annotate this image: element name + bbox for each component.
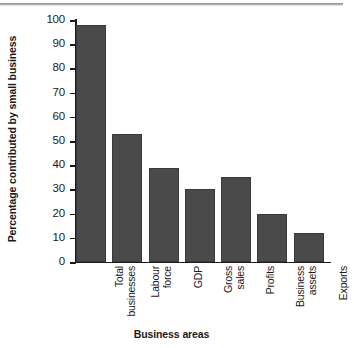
y-tick-label: 70 xyxy=(25,87,65,99)
y-tick-label: 30 xyxy=(25,183,65,195)
bar xyxy=(185,189,215,262)
x-axis-title: Business areas xyxy=(0,328,343,340)
y-tick-label: 90 xyxy=(25,38,65,50)
bar xyxy=(294,233,324,262)
y-tick-label: 20 xyxy=(25,208,65,220)
y-axis-title: Percentage contributed by small business xyxy=(4,16,20,262)
x-category-label-line: Profits xyxy=(264,266,276,294)
y-tick-label: 10 xyxy=(25,232,65,244)
x-category-label-line: businesses xyxy=(125,266,137,317)
y-tick-label: 50 xyxy=(25,135,65,147)
y-tick-label: 80 xyxy=(25,62,65,74)
bar xyxy=(221,177,251,262)
x-category-label-line: Labour xyxy=(149,266,161,298)
x-category-label-line: Exports xyxy=(337,266,349,300)
x-category-label-line: sales xyxy=(234,266,246,293)
bar xyxy=(76,25,106,262)
x-category-label-line: force xyxy=(161,266,173,298)
bar xyxy=(149,168,179,262)
y-tick-label: 0 xyxy=(25,256,65,268)
plot-area xyxy=(76,20,330,262)
x-category-label-line: Business xyxy=(294,266,306,307)
x-category-label-line: GDP xyxy=(192,266,204,288)
x-category-label-line: Total xyxy=(113,266,125,317)
y-tick-mark xyxy=(70,262,76,264)
y-tick-label: 100 xyxy=(25,14,65,26)
x-category-label-line: Gross xyxy=(222,266,234,293)
top-rule-secondary xyxy=(0,5,343,6)
y-tick-label: 40 xyxy=(25,159,65,171)
y-tick-label: 60 xyxy=(25,111,65,123)
bar xyxy=(112,134,142,262)
x-category-label-line: assets xyxy=(306,266,318,307)
bar xyxy=(257,214,287,262)
